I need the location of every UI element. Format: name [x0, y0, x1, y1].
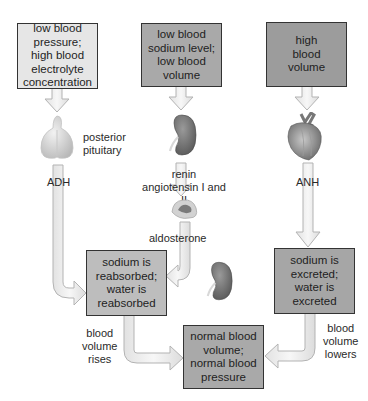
response-text: sodium is reabsorbed; water is reabsorbe… [96, 256, 157, 310]
outcome-text: normal blood volume; normal blood pressu… [190, 330, 256, 384]
pituitary-gland-icon [37, 114, 77, 162]
arrow-to-pituitary [45, 88, 69, 112]
response-box-reabsorbed: sodium is reabsorbed; water is reabsorbe… [86, 250, 167, 316]
stimulus-box-low-pressure: low blood pressure; high blood electroly… [17, 23, 98, 89]
stimulus-box-low-sodium: low blood sodium level; low blood volume [141, 23, 222, 87]
arrow-rises-to-normal [124, 315, 183, 370]
blood-volume-regulation-diagram: low blood pressure; high blood electroly… [0, 0, 368, 401]
heart-icon [283, 112, 327, 162]
label-aldosterone: aldosterone [149, 232, 207, 245]
label-adh: ADH [47, 176, 70, 189]
adrenal-gland-icon [169, 198, 199, 220]
arrow-lowers-to-normal [265, 313, 315, 368]
outcome-box-normal: normal blood volume; normal blood pressu… [183, 325, 264, 389]
stimulus-text: low blood pressure; high blood electroly… [23, 22, 92, 90]
stimulus-text: low blood sodium level; low blood volume [148, 28, 215, 82]
arrow-to-heart [295, 86, 319, 110]
label-blood-volume-rises: blood volume rises [82, 327, 117, 366]
kidney-icon [204, 259, 234, 304]
stimulus-box-high-volume: high blood volume [266, 22, 347, 87]
response-box-excreted: sodium is excreted; water is excreted [274, 248, 355, 314]
arrow-to-kidney [169, 86, 193, 110]
stimulus-text: high blood volume [288, 34, 325, 75]
label-anh: ANH [296, 176, 319, 189]
label-posterior-pituitary: posterior pituitary [83, 131, 126, 157]
response-text: sodium is excreted; water is excreted [290, 254, 339, 308]
label-blood-volume-lowers: blood volume lowers [323, 322, 358, 361]
kidney-icon [166, 113, 198, 158]
